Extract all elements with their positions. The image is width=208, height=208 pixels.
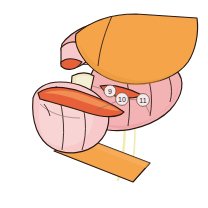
callout-9[interactable]: 9: [104, 85, 116, 97]
callout-11[interactable]: 11: [137, 94, 150, 107]
callout-10[interactable]: 10: [116, 93, 129, 106]
callout-10-label: 10: [118, 96, 126, 103]
callout-11-label: 11: [139, 97, 146, 104]
figure-container: 9 10 11: [0, 0, 208, 208]
anatomical-flap-illustration: 9 10 11: [0, 0, 208, 208]
callout-9-label: 9: [108, 88, 112, 95]
